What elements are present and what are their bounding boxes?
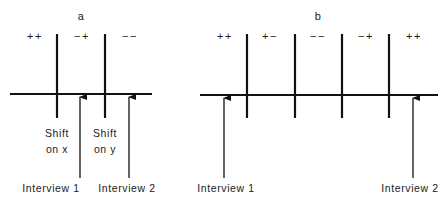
region-label: ++ xyxy=(406,30,422,42)
region-label: −+ xyxy=(358,30,374,42)
region-label: −− xyxy=(122,30,138,42)
panel-a xyxy=(10,34,152,178)
panel-b xyxy=(200,34,438,178)
region-label: −+ xyxy=(74,30,90,42)
interview-1-label-a: Interview 1 xyxy=(22,182,79,194)
shift-x-label-line2: on x xyxy=(46,143,68,155)
panel-a-title: a xyxy=(78,10,85,22)
interview-1-label-b: Interview 1 xyxy=(197,182,254,194)
interview-2-label-b: Interview 2 xyxy=(381,182,438,194)
region-label: ++ xyxy=(27,30,43,42)
region-label: −− xyxy=(310,30,326,42)
region-label: +− xyxy=(262,30,278,42)
panel-b-title: b xyxy=(315,10,322,22)
interview-2-label-a: Interview 2 xyxy=(98,182,155,194)
region-label: ++ xyxy=(217,30,233,42)
shift-x-label-line1: Shift xyxy=(45,127,69,139)
shift-y-label-line2: on y xyxy=(94,143,116,155)
shift-y-label-line1: Shift xyxy=(93,127,117,139)
